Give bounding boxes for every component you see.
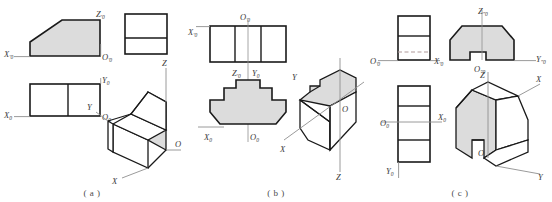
label-front-o: O'0 <box>102 52 112 63</box>
label-front-z: Z'0 <box>232 68 241 79</box>
label-front-y: Y0 <box>252 68 260 79</box>
panel-c: O'0 X'0 Z"0 Y"0 O"0 O0 X0 Y0 <box>368 0 552 202</box>
front-face-shape <box>30 20 100 56</box>
panel-a-side-view <box>125 14 167 54</box>
panel-c-front-view <box>450 10 536 61</box>
label-iso-o: O <box>478 148 484 158</box>
panel-b-drawing: X'0 O'0 Z'0 Y0 X0 O0 <box>184 0 368 202</box>
label-front-z: Z'0 <box>96 9 105 20</box>
side-view-rect <box>125 14 167 54</box>
iso-left-face <box>456 90 496 158</box>
panel-a-front-view <box>14 20 101 57</box>
panel-a: X'0 Z'0 O'0 X0 Y0 O0 <box>0 0 184 202</box>
label-iso-x: X <box>111 176 118 186</box>
label-front-y: Y"0 <box>536 54 546 65</box>
engineering-drawing-figure: X'0 Z'0 O'0 X0 Y0 O0 <box>0 0 552 202</box>
panel-b-top-view <box>196 26 286 62</box>
iso-edge-bottom-right <box>148 150 166 168</box>
panel-b-front-view <box>198 80 286 127</box>
panel-a-caption: ( a ) <box>0 188 184 198</box>
label-front-x: X0 <box>203 132 212 143</box>
iso-y-axis <box>496 166 540 174</box>
iso-left-face <box>108 121 113 152</box>
label-top-o: O'0 <box>240 12 250 23</box>
label-iso-z: Z <box>480 70 485 80</box>
panel-c-drawing: O'0 X'0 Z"0 Y"0 O"0 O0 X0 Y0 <box>368 0 552 202</box>
panel-c-caption: ( c ) <box>368 188 552 198</box>
label-iso-y: Y <box>292 72 298 82</box>
label-iso-x: X <box>535 74 542 84</box>
label-top-y: Y0 <box>386 166 394 177</box>
top-view-rect <box>398 86 430 162</box>
front-face-shape <box>210 80 286 124</box>
label-front-x: X'0 <box>3 49 13 60</box>
label-iso-y: Y <box>538 172 544 182</box>
label-top-x: X0 <box>3 110 12 121</box>
label-front-z: Z"0 <box>478 6 488 17</box>
label-iso-z: Z <box>162 58 167 68</box>
panel-b: X'0 O'0 Z'0 Y0 X0 O0 <box>184 0 368 202</box>
label-top-x: X0 <box>437 112 446 123</box>
label-top-y: Y0 <box>102 75 110 86</box>
label-iso-o: O <box>342 104 348 114</box>
label-iso-o: O <box>175 139 181 149</box>
label-left-o: O'0 <box>370 56 380 67</box>
panel-a-drawing: X'0 Z'0 O'0 X0 Y0 O0 <box>0 0 184 202</box>
panel-c-isometric-view <box>456 72 540 174</box>
label-top-x: X'0 <box>187 27 197 38</box>
label-front-o: O0 <box>250 132 259 143</box>
iso-x-axis <box>518 84 540 96</box>
panel-c-top-view <box>382 86 442 178</box>
side-view-rect <box>398 16 430 60</box>
label-iso-z: Z <box>336 172 341 182</box>
panel-b-caption: ( b ) <box>184 188 368 198</box>
panel-c-side-view <box>378 16 440 61</box>
label-left-x: X'0 <box>433 56 443 67</box>
label-iso-x: X <box>279 144 286 154</box>
iso-x-axis <box>122 168 148 178</box>
label-top-o: O0 <box>380 118 389 129</box>
